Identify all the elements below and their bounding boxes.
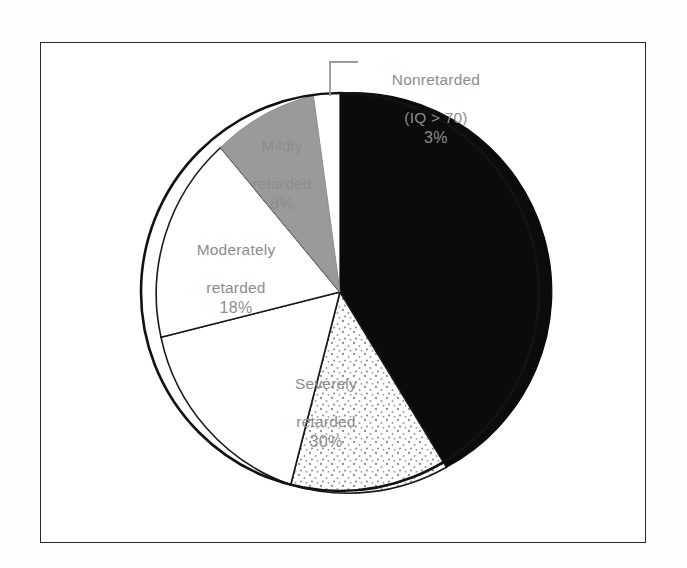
pie-label-nonretarded-line2: (IQ > 70) (404, 109, 467, 126)
pie-label-severely-line2: retarded (296, 413, 355, 430)
pie-label-mildly-line1: Mildly (262, 137, 303, 154)
nonretarded-leader-line (330, 62, 358, 96)
pie-label-mildly-line2: retarded (252, 175, 311, 192)
pie-label-nonretarded: Nonretarded (IQ > 70) 3% (360, 52, 512, 166)
figure-root: Nonretarded (IQ > 70) 3% Mildly retarded… (0, 0, 687, 568)
pie-chart (0, 0, 687, 568)
pie-label-severely-retarded: Severely retarded 30% (264, 356, 388, 470)
pie-label-mildly-retarded: Mildly retarded 8% (234, 118, 330, 232)
pie-label-moderately-line2: retarded (206, 279, 265, 296)
pie-label-mildly-percent: 8% (234, 194, 330, 214)
pie-label-nonretarded-line1: Nonretarded (392, 71, 480, 88)
pie-label-moderately-line1: Moderately (197, 241, 276, 258)
pie-label-severely-percent: 30% (264, 432, 388, 452)
pie-label-moderately-retarded: Moderately retarded 18% (167, 222, 305, 336)
pie-label-severely-line1: Severely (295, 375, 357, 392)
pie-label-moderately-percent: 18% (167, 298, 305, 318)
pie-label-nonretarded-percent: 3% (360, 128, 512, 148)
